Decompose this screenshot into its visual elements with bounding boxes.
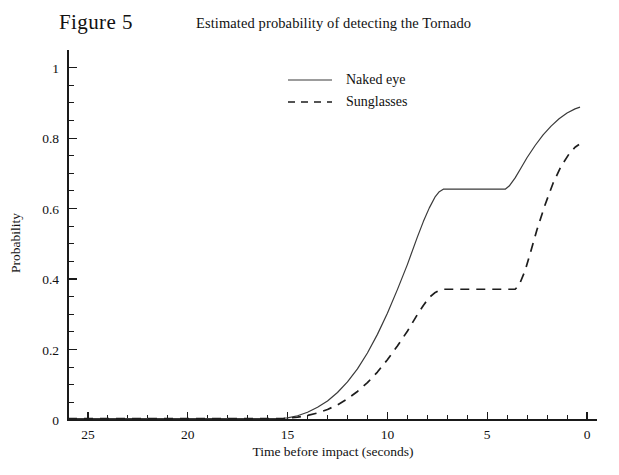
x-tick-label-10: 10 <box>381 427 395 442</box>
y-tick-label-0.8: 0.8 <box>42 131 59 146</box>
x-tick-label-0: 0 <box>584 427 591 442</box>
chart-legend: Naked eyeSunglasses <box>288 72 407 109</box>
y-tick-label-0.2: 0.2 <box>42 343 59 358</box>
y-axis-tick-labels: 00.20.40.60.81 <box>42 61 59 428</box>
series-line-sunglasses <box>68 144 579 418</box>
series-line-naked-eye <box>68 107 580 419</box>
x-axis-tick-labels: 2520151050 <box>81 427 590 442</box>
x-tick-label-20: 20 <box>181 427 195 442</box>
y-axis-label: Probability <box>8 213 23 273</box>
x-tick-label-25: 25 <box>81 427 95 442</box>
y-tick-label-0: 0 <box>52 413 59 428</box>
figure-container: Figure 5 Estimated probability of detect… <box>0 0 619 475</box>
y-axis-minor-ticks <box>68 85 74 402</box>
x-axis-minor-ticks <box>68 415 567 420</box>
y-tick-label-1: 1 <box>52 61 59 76</box>
axis-frame <box>68 50 597 420</box>
y-tick-label-0.4: 0.4 <box>42 272 59 287</box>
legend-label-sunglasses: Sunglasses <box>346 94 407 109</box>
x-tick-label-5: 5 <box>484 427 491 442</box>
chart-canvas: Figure 5 Estimated probability of detect… <box>0 0 619 475</box>
chart-title: Estimated probability of detecting the T… <box>196 15 471 31</box>
figure-number-label: Figure 5 <box>59 10 133 34</box>
x-axis-label: Time before impact (seconds) <box>252 444 413 459</box>
y-tick-label-0.6: 0.6 <box>42 202 59 217</box>
legend-label-naked-eye: Naked eye <box>346 72 405 87</box>
x-tick-label-15: 15 <box>281 427 295 442</box>
data-series-group <box>68 107 580 419</box>
